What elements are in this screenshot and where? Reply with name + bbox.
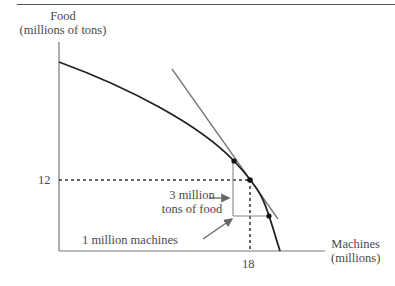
x-axis-label: Machines (millions): [331, 237, 380, 265]
food-note-line1: 3 million: [157, 188, 227, 202]
machines-note-arrow: [203, 219, 232, 239]
y-axis-label-line2: (millions of tons): [14, 23, 112, 37]
ppf-curve: [59, 62, 280, 251]
food-note-line2: tons of food: [157, 202, 227, 216]
x-axis-label-line2: (millions): [331, 251, 380, 265]
x-tick-18: 18: [242, 257, 255, 271]
point-lower: [266, 213, 271, 218]
food-change-note: 3 million tons of food: [157, 188, 227, 216]
point-upper: [231, 158, 236, 163]
y-tick-12: 12: [38, 173, 51, 187]
y-axis-label: Food (millions of tons): [14, 9, 112, 37]
point-18-12: [247, 177, 253, 183]
machines-change-note: 1 million machines: [82, 233, 178, 247]
y-axis-label-line1: Food: [14, 9, 112, 23]
x-axis-label-line1: Machines: [331, 237, 380, 251]
